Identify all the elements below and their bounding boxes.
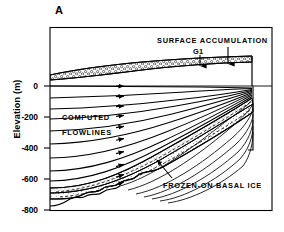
flow-arrow-5 [116, 139, 124, 141]
annotation-site-label: G1 [193, 47, 203, 56]
annotation-frozen-on-basal-ice: FROZEN-ON BASAL ICE [163, 181, 262, 190]
annotation-surface-accumulation: SURFACE ACCUMULATION [157, 36, 268, 45]
flowline-2 [50, 89, 252, 109]
y-tick-label-400: -400 [8, 143, 38, 153]
accumulation-layer [50, 56, 252, 80]
annotation-flowlines: FLOWLINES [62, 128, 112, 137]
flow-arrow-6 [116, 152, 124, 154]
cross-section-plot [0, 0, 284, 232]
flowline-1 [50, 89, 252, 98]
flow-arrow-4 [116, 126, 124, 127]
panel-label: A [55, 4, 63, 16]
y-axis-ticks [44, 86, 50, 210]
y-tick-label-600: -600 [8, 174, 38, 184]
annotation-computed: COMPUTED [62, 113, 110, 122]
y-tick-label-200: -200 [8, 112, 38, 122]
figure-panel: A Elevation (m) 0 -200 -400 -600 -800 SU… [0, 0, 284, 232]
flow-arrow-2 [116, 106, 124, 107]
y-tick-label-0: 0 [8, 81, 38, 91]
y-tick-label-800: -800 [8, 205, 38, 215]
flow-arrow-3 [116, 116, 124, 117]
